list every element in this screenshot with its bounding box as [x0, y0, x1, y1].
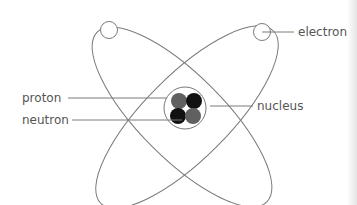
neutron-particle — [186, 93, 202, 109]
edge-shade — [347, 0, 357, 205]
proton-particle — [171, 93, 187, 109]
proton-label: proton — [22, 91, 61, 105]
proton-particle — [185, 108, 201, 124]
nucleus-label: nucleus — [257, 99, 303, 113]
nucleus-boundary — [164, 87, 206, 129]
electron-left — [101, 22, 118, 39]
neutron-label: neutron — [22, 113, 69, 127]
neutron-particle — [170, 108, 186, 124]
electron-label: electron — [298, 25, 347, 39]
